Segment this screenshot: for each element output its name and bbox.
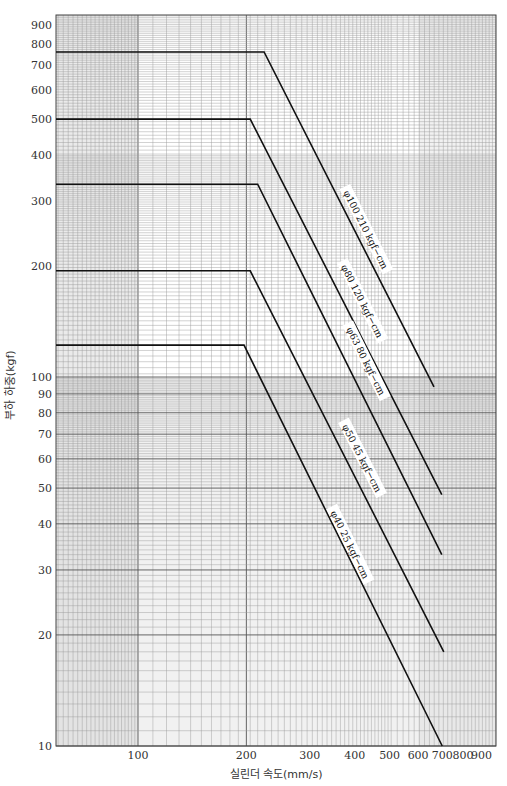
x-axis-ticks: 100200300400500600700800900 bbox=[128, 749, 493, 762]
x-tick-label: 400 bbox=[344, 749, 365, 762]
y-tick-label: 70 bbox=[38, 428, 52, 441]
x-tick-label: 200 bbox=[236, 749, 257, 762]
x-tick-label: 600 bbox=[408, 749, 429, 762]
y-tick-label: 200 bbox=[31, 260, 52, 273]
x-tick-label: 900 bbox=[471, 749, 492, 762]
y-axis-ticks: 1020304050607080901002003004005006007008… bbox=[31, 19, 52, 753]
y-tick-label: 50 bbox=[38, 482, 52, 495]
y-tick-label: 40 bbox=[38, 518, 52, 531]
y-axis-title: 부하 하중(kgf) bbox=[3, 350, 17, 419]
y-tick-label: 80 bbox=[38, 407, 52, 420]
x-axis-title: 실린더 속도(mm/s) bbox=[230, 768, 323, 781]
y-tick-label: 300 bbox=[31, 195, 52, 208]
x-tick-label: 700 bbox=[432, 749, 453, 762]
y-tick-label: 20 bbox=[38, 629, 52, 642]
y-tick-label: 100 bbox=[31, 371, 52, 384]
y-tick-label: 500 bbox=[31, 113, 52, 126]
y-tick-label: 600 bbox=[31, 84, 52, 97]
x-tick-label: 100 bbox=[128, 749, 149, 762]
y-tick-label: 60 bbox=[38, 453, 52, 466]
y-tick-label: 90 bbox=[38, 388, 52, 401]
y-tick-label: 700 bbox=[31, 59, 52, 72]
x-tick-label: 300 bbox=[299, 749, 320, 762]
y-tick-label: 400 bbox=[31, 149, 52, 162]
x-tick-label: 500 bbox=[379, 749, 400, 762]
y-tick-label: 800 bbox=[31, 38, 52, 51]
y-tick-label: 30 bbox=[38, 564, 52, 577]
y-tick-label: 10 bbox=[38, 740, 52, 753]
y-tick-label: 900 bbox=[31, 19, 52, 32]
load-speed-chart: 1020304050607080901002003004005006007008… bbox=[0, 0, 507, 786]
